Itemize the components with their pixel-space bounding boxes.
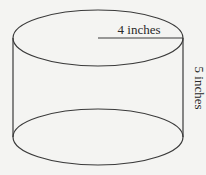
radius-label: 4 inches xyxy=(118,22,161,37)
cylinder-diagram: 4 inches 5 inches xyxy=(0,0,206,175)
height-label: 5 inches xyxy=(192,67,206,110)
cylinder-bottom-ellipse xyxy=(13,109,183,165)
